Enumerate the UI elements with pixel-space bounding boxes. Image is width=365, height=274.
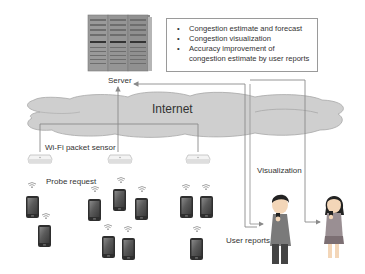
wifi-sensor-icon (108, 155, 132, 163)
wifi-signal-icon (202, 185, 210, 191)
wifi-signal-icon (193, 227, 201, 233)
wifi-signal-icon (124, 227, 132, 233)
smartphone-group-1 (26, 183, 51, 248)
feature-item: •Congestion estimate and forecast (177, 24, 313, 34)
feature-text: Congestion estimate and forecast (189, 24, 302, 33)
wifi-signal-icon (91, 187, 99, 193)
server-rack-icon (88, 15, 152, 71)
woman-with-phone-icon (324, 196, 344, 258)
wifi-signal-icon (182, 185, 190, 191)
bullet: • (177, 44, 180, 54)
server-label: Server (108, 77, 132, 85)
feature-text: congestion estimate by user reports (189, 54, 309, 63)
bullet: • (177, 24, 180, 34)
smartphone-icon (180, 196, 193, 218)
wifi-signal-icon (28, 183, 36, 189)
smartphone-icon (200, 196, 213, 218)
visualization-label: Visualization (257, 167, 302, 175)
feature-text: Accuracy improvement of (189, 44, 275, 53)
smartphone-icon (190, 238, 203, 260)
smartphone-icon (102, 236, 115, 258)
feature-text: Congestion visualization (189, 34, 271, 43)
wifi-signal-icon (42, 214, 50, 220)
wifi-signal-icon (138, 187, 146, 193)
feature-item-continued: congestion estimate by user reports (177, 54, 313, 64)
probe-request-label: Probe request (46, 178, 96, 186)
wifi-sensor-icon (28, 155, 52, 163)
smartphone-icon (26, 196, 39, 218)
feature-item: •Accuracy improvement of (177, 44, 313, 54)
smartphone-icon (122, 238, 135, 260)
wifi-signal-icon (104, 225, 112, 231)
features-box: •Congestion estimate and forecast •Conge… (166, 18, 318, 72)
wifi-signal-icon (117, 178, 125, 184)
man-with-phone-icon (270, 195, 291, 264)
internet-label: Internet (152, 102, 193, 116)
user-reports-label: User reports (226, 237, 270, 245)
smartphone-group-2 (88, 178, 148, 261)
wifi-sensor-label: Wi-Fi packet sensor (45, 144, 116, 152)
features-list: •Congestion estimate and forecast •Conge… (177, 24, 313, 64)
smartphone-icon (88, 199, 101, 221)
bullet: • (177, 34, 180, 44)
feature-item: •Congestion visualization (177, 34, 313, 44)
smartphone-group-3 (180, 185, 213, 261)
smartphone-icon (38, 225, 51, 247)
smartphone-icon (113, 189, 126, 211)
smartphone-icon (135, 198, 148, 220)
wifi-sensor-icon (186, 155, 210, 163)
